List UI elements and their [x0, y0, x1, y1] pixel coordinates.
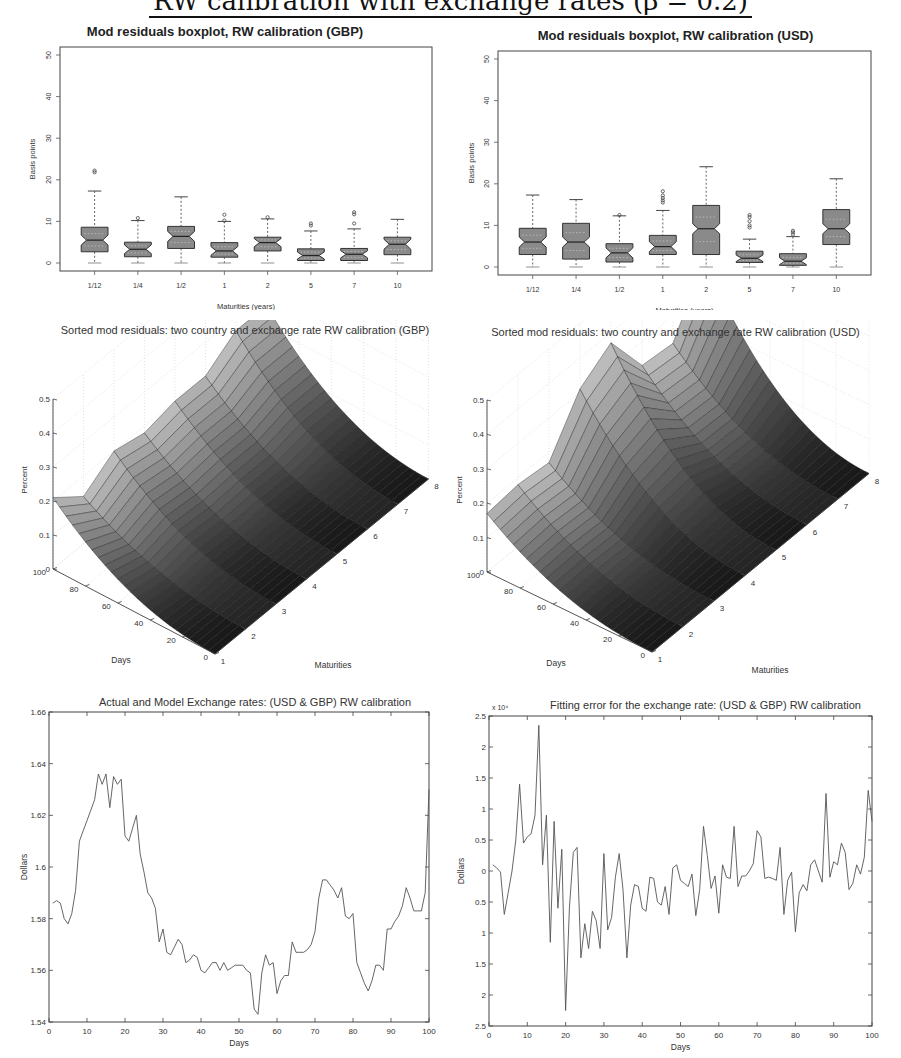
days-tick-label: 40 [134, 619, 143, 628]
y-tick-label: 10 [45, 217, 52, 225]
z-tick-label: 0.1 [473, 534, 485, 543]
days-axis-label: Days [546, 658, 565, 668]
x-axis-label: Days [229, 1038, 248, 1048]
y-tick-label: 30 [45, 134, 52, 142]
x-tick-label: 100 [865, 1031, 879, 1040]
x-tick-label: 80 [349, 1027, 358, 1036]
z-tick-label: 0 [46, 565, 51, 574]
y-tick-label: 1 [482, 805, 487, 814]
x-tick-label: 60 [714, 1031, 723, 1040]
z-tick-label: 0.2 [473, 499, 485, 508]
maturities-axis-label: Maturities [752, 665, 789, 675]
x-tick-label: 10 [523, 1031, 532, 1040]
days-tick-label: 0 [641, 651, 646, 660]
y-tick-label: 1.54 [30, 1018, 46, 1027]
y-tick-label: 2 [482, 991, 487, 1000]
x-tick-label: 50 [235, 1027, 244, 1036]
plot-frame [498, 51, 871, 275]
y-tick-label: 2 [482, 743, 487, 752]
y-axis-label: Dollars [19, 854, 29, 880]
maturity-tick-label: 6 [373, 532, 378, 541]
maturities-axis-label: Maturities [315, 660, 352, 670]
z-tick-label: 0.5 [473, 396, 485, 405]
y-tick-label: 30 [483, 138, 490, 146]
y-tick-label: 1.62 [30, 811, 46, 820]
y-tick-label: 1.56 [30, 966, 46, 975]
days-tick-label: 0 [204, 653, 209, 662]
y-tick-label: 2.5 [475, 1022, 487, 1031]
chart-title: Mod residuals boxplot, RW calibration (G… [0, 24, 450, 39]
maturity-tick-label: 6 [813, 528, 818, 537]
z-axis-label: Percent [455, 475, 464, 503]
chart-title: Sorted mod residuals: two country and ex… [0, 324, 470, 336]
chart-title: Actual and Model Exchange rates: (USD & … [0, 696, 480, 708]
y-tick-label: 40 [483, 97, 490, 105]
days-tick-label: 80 [504, 587, 513, 596]
maturity-tick-label: 5 [782, 553, 787, 562]
days-tick-label: 20 [603, 635, 612, 644]
x-tick-label: 1 [222, 282, 226, 289]
maturity-tick-label: 5 [343, 557, 348, 566]
x-tick-label: 1/4 [571, 286, 581, 293]
y-tick-label: 50 [483, 55, 490, 63]
chart-title: Mod residuals boxplot, RW calibration (U… [450, 28, 901, 43]
x-tick-label: 10 [393, 282, 401, 289]
chart-title: Fitting error for the exchange rate: (US… [450, 699, 901, 711]
gbp-surface-chart: 00.10.20.30.40.502040608010012345678Perc… [0, 320, 450, 680]
x-tick-label: 0 [487, 1031, 492, 1040]
maturity-tick-label: 1 [658, 655, 663, 664]
usd-boxplot-panel: Mod residuals boxplot, RW calibration (U… [450, 20, 901, 310]
maturity-tick-label: 7 [844, 502, 849, 511]
maturity-tick-label: 3 [282, 607, 287, 616]
days-tick-label: 60 [537, 603, 546, 612]
x-axis-label: Maturities (years) [217, 302, 275, 310]
x-tick-label: 1/4 [133, 282, 143, 289]
maturity-tick-label: 8 [434, 482, 439, 491]
y-axis-label: Basis points [28, 139, 37, 180]
y-tick-label: 1.64 [30, 760, 46, 769]
x-tick-label: 20 [561, 1031, 570, 1040]
days-tick-label: 40 [570, 619, 579, 628]
x-tick-label: 1/2 [615, 286, 625, 293]
x-tick-label: 50 [676, 1031, 685, 1040]
y-tick-label: 0 [483, 265, 490, 269]
z-axis-label: Percent [20, 465, 29, 493]
y-tick-label: 10 [483, 221, 490, 229]
y-tick-label: 1 [482, 929, 487, 938]
y-tick-label: 0.5 [475, 836, 487, 845]
gbp-boxplot-chart: 010203040501/121/41/2125710Maturities (y… [0, 20, 450, 310]
y-tick-label: 40 [45, 93, 52, 101]
z-tick-label: 0.5 [39, 395, 51, 404]
maturity-tick-label: 4 [312, 582, 317, 591]
usd-boxplot-chart: 010203040501/121/41/2125710Maturities (y… [450, 20, 901, 310]
x-tick-label: 70 [753, 1031, 762, 1040]
maturity-tick-label: 8 [875, 477, 880, 486]
x-tick-label: 1 [661, 286, 665, 293]
maturity-tick-label: 1 [221, 657, 226, 666]
page-heading-text: RW calibration with exchange rates (β = … [149, 0, 752, 18]
y-tick-label: 1.5 [475, 960, 487, 969]
y-tick-label: 1.5 [475, 774, 487, 783]
y-tick-label: 1.66 [30, 708, 46, 717]
days-axis-label: Days [111, 655, 130, 665]
y-tick-label: 20 [483, 180, 490, 188]
x-tick-label: 0 [47, 1027, 52, 1036]
x-tick-label: 40 [197, 1027, 206, 1036]
z-tick-label: 0.2 [39, 497, 51, 506]
page-heading: RW calibration with exchange rates (β = … [0, 0, 901, 16]
y-tick-label: 0 [45, 261, 52, 265]
maturity-tick-label: 2 [251, 632, 256, 641]
x-tick-label: 2 [704, 286, 708, 293]
x-tick-label: 10 [832, 286, 840, 293]
maturity-tick-label: 2 [689, 630, 694, 639]
x-tick-label: 100 [422, 1027, 436, 1036]
days-tick-label: 20 [167, 636, 176, 645]
y-tick-label: 20 [45, 176, 52, 184]
z-tick-label: 0.3 [39, 463, 51, 472]
plot-frame [60, 47, 432, 271]
maturity-tick-label: 4 [751, 579, 756, 588]
days-tick-label: 80 [69, 585, 78, 594]
x-tick-label: 70 [311, 1027, 320, 1036]
y-tick-label: 2.5 [475, 712, 487, 721]
y-axis-label: Dollars [456, 858, 466, 884]
